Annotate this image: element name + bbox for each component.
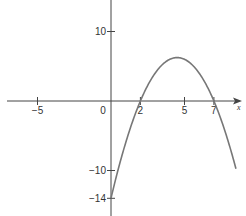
x-axis-label: x [236, 103, 241, 112]
chart: −5025710−10−14 x [0, 0, 246, 216]
x-axis [7, 98, 242, 105]
y-tick-label: −14 [89, 193, 106, 204]
plot-svg: −5025710−10−14 x [0, 0, 246, 216]
y-tick-label: −10 [89, 165, 106, 176]
parabola-curve [111, 58, 236, 199]
x-tick-label: 0 [100, 105, 106, 116]
y-tick-label: 10 [95, 26, 107, 37]
x-tick-label: −5 [32, 105, 44, 116]
tick-labels: −5025710−10−14 [32, 26, 217, 204]
x-tick-label: 5 [182, 105, 188, 116]
ticks [38, 32, 214, 199]
